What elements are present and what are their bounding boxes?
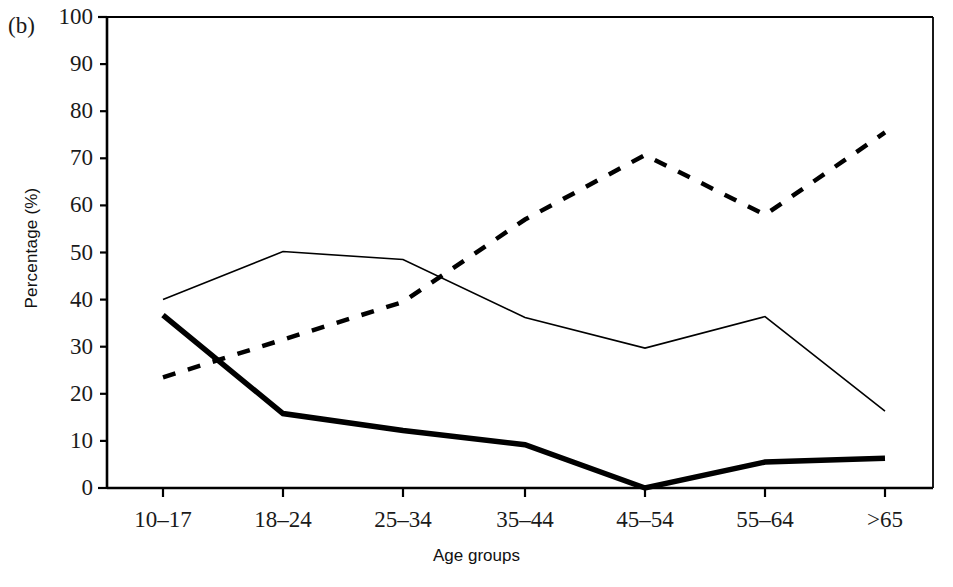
series-thin-solid-line: [163, 252, 885, 412]
chart-plot-area: [0, 0, 953, 587]
data-series-group: [163, 132, 885, 488]
axis-frame: [107, 17, 933, 488]
series-dashed-line: [163, 132, 885, 377]
figure-panel-b: (b) Percentage (%) Age groups 0102030405…: [0, 0, 953, 587]
tick-marks: [98, 17, 885, 497]
